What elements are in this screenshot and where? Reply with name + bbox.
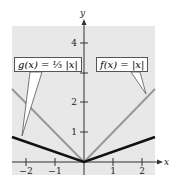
- svg-text:1: 1: [71, 127, 77, 137]
- chart-plot: −2 −1 1 2 1 2 4 x y: [0, 0, 175, 185]
- svg-text:1: 1: [110, 166, 116, 176]
- f-label: f(x) = |x|: [96, 57, 148, 72]
- y-axis-arrow-icon: [82, 19, 87, 25]
- svg-text:x: x: [164, 157, 169, 167]
- svg-text:−1: −1: [48, 166, 61, 176]
- x-axis-arrow-icon: [157, 160, 163, 165]
- svg-text:2: 2: [71, 97, 77, 107]
- svg-text:−2: −2: [19, 166, 32, 176]
- svg-text:4: 4: [71, 38, 77, 48]
- g-label: g(x) = ⅓ |x|: [14, 57, 82, 72]
- svg-text:2: 2: [139, 166, 145, 176]
- svg-text:y: y: [79, 8, 86, 18]
